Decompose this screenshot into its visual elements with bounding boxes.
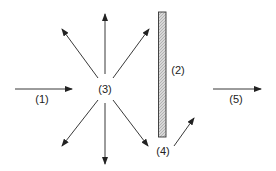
scatter-arrow-upright bbox=[113, 29, 149, 78]
label-plate: (2) bbox=[171, 65, 184, 76]
scatter-arrow-downright bbox=[113, 100, 148, 146]
scatter-arrow-downleft bbox=[62, 100, 98, 146]
plate bbox=[159, 12, 167, 137]
label-transmitted: (5) bbox=[229, 94, 242, 105]
reflected-arrow bbox=[174, 118, 194, 146]
label-scatter-center: (3) bbox=[98, 84, 111, 95]
label-incident: (1) bbox=[35, 94, 48, 105]
label-reflected: (4) bbox=[156, 146, 169, 157]
scatter-arrow-upleft bbox=[62, 29, 98, 78]
diagram-canvas bbox=[0, 0, 276, 171]
